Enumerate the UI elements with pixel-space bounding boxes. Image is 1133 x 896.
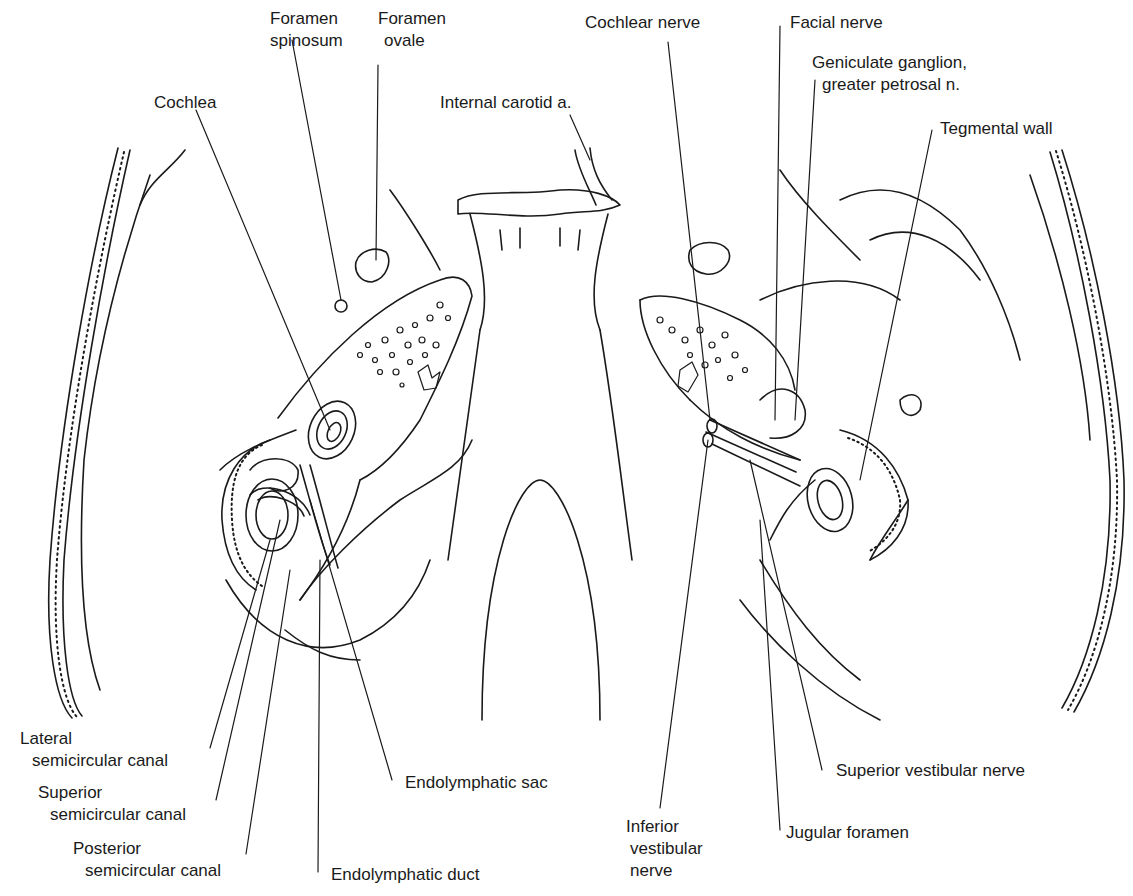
label-superior-semicircular-canal: Superior semicircular canal (38, 782, 186, 826)
label-endolymphatic-duct: Endolymphatic duct (331, 864, 479, 886)
label-internal-carotid: Internal carotid a. (440, 92, 571, 114)
label-inferior-vestibular-nerve: Inferior vestibular nerve (626, 816, 703, 882)
label-superior-vestibular-nerve: Superior vestibular nerve (836, 760, 1025, 782)
anatomy-figure: Foramen spinosum Foramen ovale Cochlea I… (0, 0, 1133, 896)
right-petrous-bone (640, 170, 1020, 720)
label-geniculate-ganglion: Geniculate ganglion, greater petrosal n. (812, 52, 967, 96)
label-foramen-ovale: Foramen ovale (378, 8, 446, 52)
label-tegmental-wall: Tegmental wall (940, 118, 1052, 140)
right-skull-wall (1030, 150, 1124, 712)
label-endolymphatic-sac: Endolymphatic sac (405, 772, 548, 794)
label-cochlea: Cochlea (154, 92, 216, 114)
label-lateral-semicircular-canal: Lateral semicircular canal (20, 728, 168, 772)
leader-lines (196, 26, 932, 872)
left-skull-wall (49, 148, 185, 718)
label-jugular-foramen: Jugular foramen (786, 822, 909, 844)
label-posterior-semicircular-canal: Posterior semicircular canal (73, 838, 221, 882)
label-facial-nerve: Facial nerve (790, 12, 883, 34)
label-foramen-spinosum: Foramen spinosum (270, 8, 343, 52)
clivus (448, 190, 632, 720)
left-petrous-bone (220, 190, 472, 660)
label-cochlear-nerve: Cochlear nerve (585, 12, 700, 34)
